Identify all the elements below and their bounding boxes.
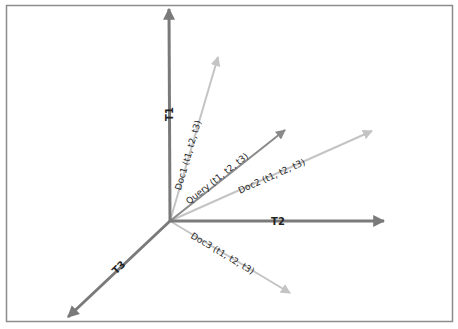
t2-axis-label: T2 [271, 216, 285, 227]
t1-axis-label: T1 [164, 107, 175, 121]
vector-space-diagram: T1 T2 T3 Doc1 (t1, t2, t3) Query (t1, t2… [0, 0, 458, 329]
